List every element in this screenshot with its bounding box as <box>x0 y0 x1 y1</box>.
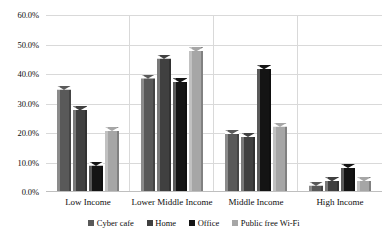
bar-highlight-edge <box>173 78 176 192</box>
x-axis-category-label: Middle Income <box>214 194 298 212</box>
bar-top-notch <box>89 162 103 166</box>
bar-shadow-edge <box>285 123 287 192</box>
bar-groups <box>46 15 382 192</box>
legend-label: Office <box>198 219 220 228</box>
legend-label: Cyber cafe <box>97 219 134 228</box>
y-axis-tick-label: 30.0% <box>18 99 39 108</box>
bar[interactable] <box>241 133 255 192</box>
bar-highlight-edge <box>225 130 228 192</box>
y-axis: 0.0%10.0%20.0%30.0%40.0%50.0%60.0% <box>0 0 44 200</box>
bar-top-notch <box>105 127 119 131</box>
bar-shadow-edge <box>117 127 119 192</box>
bar-shadow-edge <box>353 164 355 192</box>
y-axis-tick-label: 40.0% <box>18 70 39 79</box>
y-axis-tick-label: 60.0% <box>18 11 39 20</box>
bar-top-notch <box>73 106 87 110</box>
bar-top-notch <box>325 177 339 181</box>
bar-highlight-edge <box>273 123 276 192</box>
bar[interactable] <box>189 47 203 192</box>
bar-highlight-edge <box>257 65 260 192</box>
bar-highlight-edge <box>157 55 160 192</box>
legend-swatch-icon <box>88 220 94 226</box>
x-axis-category-label: High Income <box>298 194 382 212</box>
bar-shadow-edge <box>185 78 187 192</box>
bar-shadow-edge <box>253 133 255 192</box>
bar-top-notch <box>173 78 187 82</box>
bar-shadow-edge <box>269 65 271 192</box>
legend-item[interactable]: Cyber cafe <box>88 219 134 228</box>
bar-top-notch <box>341 164 355 168</box>
bar-top-notch <box>57 86 71 90</box>
bar[interactable] <box>157 55 171 192</box>
bar[interactable] <box>341 164 355 192</box>
bar-highlight-edge <box>341 164 344 192</box>
legend-swatch-icon <box>189 220 195 226</box>
bar-top-notch <box>141 75 155 79</box>
legend-item[interactable]: Home <box>147 219 176 228</box>
bar-group <box>298 15 382 192</box>
x-axis-category-label: Lower Middle Income <box>130 194 214 212</box>
bar-highlight-edge <box>241 133 244 192</box>
bar-shadow-edge <box>153 75 155 192</box>
bar-highlight-edge <box>105 127 108 192</box>
bar-top-notch <box>241 133 255 137</box>
bar[interactable] <box>325 177 339 192</box>
bar-top-notch <box>157 55 171 59</box>
legend-swatch-icon <box>147 220 153 226</box>
bar-top-notch <box>225 130 239 134</box>
bar-top-notch <box>189 47 203 51</box>
x-axis-line <box>46 191 382 192</box>
x-axis-category-label: Low Income <box>46 194 130 212</box>
bar-highlight-edge <box>73 106 76 192</box>
bar[interactable] <box>105 127 119 192</box>
bar[interactable] <box>257 65 271 192</box>
bar-group <box>46 15 130 192</box>
legend-label: Home <box>155 219 176 228</box>
x-axis: Low IncomeLower Middle IncomeMiddle Inco… <box>46 194 382 212</box>
bar-shadow-edge <box>169 55 171 192</box>
bar-shadow-edge <box>69 86 71 192</box>
bar[interactable] <box>73 106 87 192</box>
bar-group <box>130 15 214 192</box>
bar-top-notch <box>309 182 323 186</box>
bar-top-notch <box>257 65 271 69</box>
y-axis-tick-label: 0.0% <box>22 188 39 197</box>
bar[interactable] <box>141 75 155 192</box>
y-axis-tick-label: 10.0% <box>18 158 39 167</box>
bar[interactable] <box>225 130 239 192</box>
legend-item[interactable]: Office <box>189 219 219 228</box>
chart-legend: Cyber cafeHomeOfficePublic free Wi-Fi <box>0 214 388 232</box>
bar-highlight-edge <box>89 162 92 192</box>
bar[interactable] <box>173 78 187 192</box>
bar-top-notch <box>273 123 287 127</box>
bar[interactable] <box>57 86 71 192</box>
bar-group <box>214 15 298 192</box>
bar[interactable] <box>357 177 371 192</box>
legend-item[interactable]: Public free Wi-Fi <box>232 219 300 228</box>
bar-top-notch <box>357 177 371 181</box>
plot-area <box>46 15 382 192</box>
bar[interactable] <box>89 162 103 192</box>
y-axis-tick-label: 50.0% <box>18 40 39 49</box>
bar-shadow-edge <box>101 162 103 192</box>
legend-swatch-icon <box>232 220 238 226</box>
bar[interactable] <box>273 123 287 192</box>
legend-label: Public free Wi-Fi <box>241 219 300 228</box>
y-axis-tick-label: 20.0% <box>18 129 39 138</box>
bar-shadow-edge <box>201 47 203 192</box>
bar-shadow-edge <box>85 106 87 192</box>
bar-highlight-edge <box>189 47 192 192</box>
bar-highlight-edge <box>141 75 144 192</box>
bar-chart: 0.0%10.0%20.0%30.0%40.0%50.0%60.0% Low I… <box>0 0 388 236</box>
bar-shadow-edge <box>237 130 239 192</box>
bar-highlight-edge <box>57 86 60 192</box>
